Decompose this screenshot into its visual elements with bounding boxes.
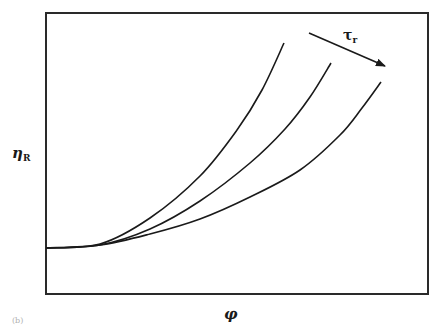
figure: ηR φ τr (b) — [0, 0, 447, 328]
line-plot — [0, 0, 447, 328]
curves — [46, 43, 381, 248]
x-axis-label: φ — [224, 305, 238, 323]
curve-2 — [46, 63, 331, 248]
panel-label: (b) — [12, 316, 23, 325]
curve-1 — [46, 43, 284, 248]
plot-frame — [46, 13, 428, 294]
curve-3 — [46, 82, 381, 248]
y-axis-label: ηR — [12, 144, 30, 163]
arrow-label: τr — [343, 27, 357, 45]
